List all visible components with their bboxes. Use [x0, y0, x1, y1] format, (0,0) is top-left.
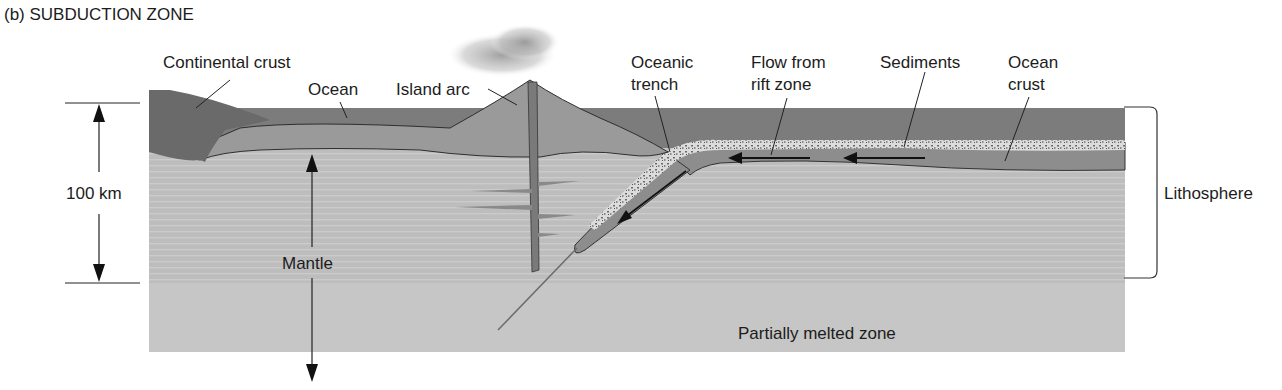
island-arc-label: Island arc: [396, 80, 470, 99]
figure-title: (b) SUBDUCTION ZONE: [4, 5, 194, 24]
subduction-zone-diagram: (b) SUBDUCTION ZONE: [0, 0, 1282, 390]
ocean-crust-label: crust: [1008, 75, 1045, 94]
arrow-down-icon: [93, 264, 105, 282]
ocean-label: Ocean: [308, 80, 358, 99]
oceanic-trench-label: Oceanic: [631, 53, 694, 72]
flow-from-rift-zone-label: rift zone: [751, 75, 811, 94]
sediments-label: Sediments: [880, 53, 960, 72]
continental-crust-label: Continental crust: [163, 53, 291, 72]
arrow-down-icon: [306, 364, 318, 382]
scale-label: 100 km: [66, 184, 122, 203]
partially-melted-zone-label: Partially melted zone: [738, 324, 896, 343]
arrow-up-icon: [93, 104, 105, 122]
volcanic-smoke: [490, 24, 560, 60]
lithosphere-label: Lithosphere: [1164, 184, 1253, 203]
mantle-label: Mantle: [282, 254, 333, 273]
oceanic-trench-label: trench: [631, 75, 678, 94]
ocean-crust-label: Ocean: [1008, 53, 1058, 72]
lithosphere-bracket: [1124, 107, 1157, 278]
flow-from-rift-zone-label: Flow from: [751, 53, 826, 72]
